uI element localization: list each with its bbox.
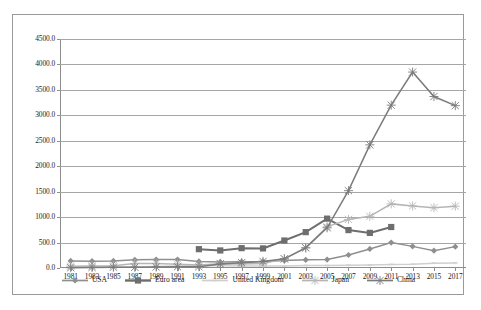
legend-label: China	[397, 276, 415, 284]
data-point-diamond	[345, 252, 351, 258]
legend-marker-x-icon	[366, 276, 394, 285]
x-axis-tick	[220, 268, 221, 271]
data-point-x	[387, 199, 396, 208]
x-axis-tick	[434, 268, 435, 271]
data-point-x	[66, 263, 75, 272]
legend-item-japan[interactable]: Japan	[301, 276, 349, 285]
series-euro-area	[196, 216, 395, 254]
data-point-x	[109, 263, 118, 272]
data-point-square	[260, 245, 266, 251]
data-point-diamond	[452, 244, 458, 250]
data-point-diamond	[388, 239, 394, 245]
data-point-square	[196, 246, 202, 252]
data-point-square	[324, 216, 330, 222]
data-point-x	[365, 212, 374, 221]
series-layer	[60, 39, 466, 268]
legend-item-euro-area[interactable]: Euro area	[124, 276, 184, 285]
chart-border: 0.0500.01000.01500.02000.02500.03000.035…	[12, 14, 464, 295]
x-axis-tick	[327, 268, 328, 271]
y-axis-tick-label: 3000.0	[35, 112, 55, 119]
series-line	[71, 72, 456, 268]
data-point-x	[365, 140, 374, 149]
legend-marker-x-icon	[301, 276, 329, 285]
data-point-square	[217, 247, 223, 253]
data-point-x	[280, 254, 289, 263]
data-point-square	[303, 229, 309, 235]
x-axis-tick	[370, 268, 371, 271]
data-point-x	[310, 276, 319, 285]
data-point-x	[301, 243, 310, 252]
data-point-diamond	[367, 246, 373, 252]
legend-marker-diamond-icon	[61, 276, 89, 285]
chart-legend: USAEuro areaUnited KingdomJapanChina	[12, 272, 464, 288]
y-axis-tick	[57, 268, 60, 269]
data-point-x	[387, 101, 396, 110]
data-point-diamond	[409, 243, 415, 249]
x-axis-tick	[242, 268, 243, 271]
x-axis-tick	[455, 268, 456, 271]
data-point-diamond	[324, 257, 330, 263]
legend-marker-line-icon	[201, 276, 229, 285]
data-point-x	[259, 257, 268, 266]
data-point-x	[88, 263, 97, 272]
y-axis-tick-label: 2000.0	[35, 163, 55, 170]
data-point-square	[281, 237, 287, 243]
data-point-x	[451, 101, 460, 110]
x-axis-tick	[306, 268, 307, 271]
data-point-square	[239, 245, 245, 251]
data-point-diamond	[303, 257, 309, 263]
y-axis-tick-label: 1500.0	[35, 188, 55, 195]
legend-label: United Kingdom	[232, 276, 283, 284]
data-point-diamond	[72, 277, 78, 283]
x-axis-tick	[413, 268, 414, 271]
data-point-x	[237, 258, 246, 267]
legend-item-china[interactable]: China	[366, 276, 415, 285]
x-axis-tick	[348, 268, 349, 271]
legend-label: Japan	[332, 276, 349, 284]
x-axis-tick	[263, 268, 264, 271]
y-axis-tick-label: 4500.0	[35, 35, 55, 42]
data-point-x	[451, 202, 460, 211]
data-point-x	[152, 262, 161, 271]
y-axis-tick-label: 0.0	[46, 264, 55, 271]
data-point-square	[345, 227, 351, 233]
legend-label: USA	[92, 276, 107, 284]
legend-item-united-kingdom[interactable]: United Kingdom	[201, 276, 283, 285]
x-axis-tick	[284, 268, 285, 271]
y-axis-tick-label: 1000.0	[35, 213, 55, 220]
data-point-x	[408, 68, 417, 77]
legend-item-usa[interactable]: USA	[61, 276, 107, 285]
legend-marker-square-icon	[124, 276, 152, 285]
plot-area: 0.0500.01000.01500.02000.02500.03000.035…	[60, 39, 466, 268]
y-axis-tick-label: 4000.0	[35, 61, 55, 68]
data-point-x	[344, 186, 353, 195]
data-point-x	[429, 92, 438, 101]
data-point-diamond	[431, 248, 437, 254]
legend-label: Euro area	[155, 276, 184, 284]
data-point-square	[367, 230, 373, 236]
data-point-x	[323, 223, 332, 232]
data-point-x	[216, 259, 225, 268]
series-line	[199, 219, 391, 251]
data-point-x	[173, 262, 182, 271]
data-point-x	[408, 201, 417, 210]
data-point-x	[130, 263, 139, 272]
data-point-x	[429, 203, 438, 212]
y-axis-tick-label: 3500.0	[35, 86, 55, 93]
chart-figure: 0.0500.01000.01500.02000.02500.03000.035…	[0, 0, 481, 310]
data-point-x	[194, 262, 203, 271]
series-line	[71, 204, 456, 266]
data-point-square	[135, 277, 141, 283]
data-point-square	[388, 224, 394, 230]
data-point-x	[375, 276, 384, 285]
y-axis-tick-label: 500.0	[39, 239, 55, 246]
series-china	[66, 68, 460, 273]
x-axis-tick	[391, 268, 392, 271]
y-axis-tick-label: 2500.0	[35, 137, 55, 144]
data-point-x	[344, 215, 353, 224]
